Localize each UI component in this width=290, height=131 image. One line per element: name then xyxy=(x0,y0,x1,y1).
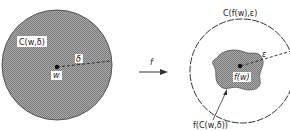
pointer-line xyxy=(213,92,226,120)
center-label-fw: f(w) xyxy=(234,73,250,82)
radius-label-delta: δ xyxy=(76,55,81,64)
left-disk: C(w,δ) w δ xyxy=(2,10,112,120)
radius-label-epsilon: ε xyxy=(262,50,267,59)
pointer-arrow-icon xyxy=(223,89,227,95)
continuity-diagram: C(w,δ) w δ f C(f(w),ε) f(w) ε f(C(w,δ)) xyxy=(0,0,290,131)
image-region-f-c xyxy=(213,50,264,90)
disk-label: C(f(w),ε) xyxy=(223,9,257,18)
center-label-w: w xyxy=(53,71,60,80)
center-point-w xyxy=(55,65,59,69)
mapping-arrow: f xyxy=(139,58,168,75)
disk-label: C(w,δ) xyxy=(19,38,45,47)
arrow-label-f: f xyxy=(150,58,154,67)
right-disk: C(f(w),ε) f(w) ε f(C(w,δ)) xyxy=(190,9,290,130)
center-point-fw xyxy=(238,64,242,68)
arrow-head-icon xyxy=(160,69,168,75)
image-region-label: f(C(w,δ)) xyxy=(193,121,228,130)
